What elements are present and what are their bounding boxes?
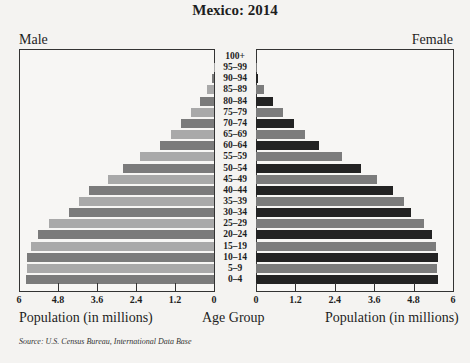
age-group-label: 40–44	[214, 185, 256, 196]
female-bar	[256, 230, 432, 239]
female-bar	[256, 275, 438, 284]
age-group-label: 20–24	[214, 229, 256, 240]
age-group-label: 80–84	[214, 96, 256, 107]
female-bar	[256, 164, 361, 173]
male-bar	[27, 253, 214, 262]
age-group-label: 65–69	[214, 129, 256, 140]
male-bar	[191, 108, 214, 117]
female-tick-label: 6	[438, 294, 468, 305]
chart-title: Mexico: 2014	[0, 2, 470, 19]
male-tick	[97, 283, 98, 292]
male-tick-label: 3.6	[82, 294, 112, 305]
male-bar	[123, 164, 214, 173]
male-label: Male	[19, 32, 48, 48]
male-bar	[49, 219, 214, 228]
female-tick-label: 3.6	[359, 294, 389, 305]
male-tick-label: 1.2	[160, 294, 190, 305]
female-tick	[256, 283, 257, 292]
female-bar	[256, 186, 393, 195]
female-tick	[335, 283, 336, 292]
female-tick	[374, 283, 375, 292]
male-tick	[214, 283, 215, 292]
male-bar	[160, 141, 214, 150]
female-tick-label: 4.8	[399, 294, 429, 305]
male-tick-label: 4.8	[43, 294, 73, 305]
male-bar	[89, 186, 214, 195]
male-tick	[19, 283, 20, 292]
female-bar	[256, 97, 273, 106]
male-tick	[58, 283, 59, 292]
age-group-label: 25–29	[214, 218, 256, 229]
female-bar	[256, 130, 305, 139]
female-bar	[256, 152, 342, 161]
age-group-label: 85–89	[214, 84, 256, 95]
female-tick	[414, 283, 415, 292]
male-bar	[207, 85, 214, 94]
female-tick	[453, 283, 454, 292]
age-group-label: 0–4	[214, 274, 256, 285]
male-bar	[38, 230, 214, 239]
female-bar	[256, 141, 319, 150]
female-x-axis-title: Population (in millions)	[325, 310, 459, 326]
female-bar	[256, 85, 264, 94]
male-tick-label: 2.4	[121, 294, 151, 305]
female-tick-label: 0	[241, 294, 271, 305]
age-group-label: 35–39	[214, 196, 256, 207]
female-label: Female	[412, 32, 453, 48]
male-tick	[175, 283, 176, 292]
female-bar	[256, 253, 438, 262]
age-group-label: 15–19	[214, 241, 256, 252]
age-group-label: 50–54	[214, 163, 256, 174]
female-tick	[295, 283, 296, 292]
male-bar	[31, 242, 214, 251]
female-tick-label: 1.2	[280, 294, 310, 305]
source-note: Source: U.S. Census Bureau, Internationa…	[19, 337, 192, 346]
female-x-axis	[256, 291, 454, 292]
female-bar	[256, 208, 411, 217]
age-group-label: 90–94	[214, 73, 256, 84]
male-bar	[181, 119, 214, 128]
male-tick	[136, 283, 137, 292]
age-group-label: 30–34	[214, 207, 256, 218]
female-bar	[256, 74, 258, 83]
female-tick-label: 2.4	[320, 294, 350, 305]
age-group-label: 55–59	[214, 151, 256, 162]
age-group-label: 10–14	[214, 252, 256, 263]
male-bar	[69, 208, 214, 217]
male-bar	[171, 130, 214, 139]
male-bar	[27, 264, 214, 273]
female-bar	[256, 219, 424, 228]
age-group-label: 70–74	[214, 118, 256, 129]
male-bar	[26, 275, 214, 284]
female-bar	[256, 264, 437, 273]
male-bar	[79, 197, 214, 206]
male-bar	[108, 175, 214, 184]
age-group-label: 100+	[214, 51, 256, 62]
male-x-axis	[19, 291, 215, 292]
age-group-label: 5–9	[214, 263, 256, 274]
female-bar	[256, 63, 257, 72]
male-bar	[200, 97, 214, 106]
female-bar	[256, 108, 283, 117]
age-group-axis-title: Age Group	[202, 310, 265, 326]
male-tick-label: 0	[199, 294, 229, 305]
female-bar	[256, 242, 436, 251]
female-bar	[256, 119, 294, 128]
male-tick-label: 6	[4, 294, 34, 305]
age-group-label: 60–64	[214, 140, 256, 151]
male-bar	[140, 152, 214, 161]
age-group-label: 75–79	[214, 107, 256, 118]
female-bar	[256, 197, 404, 206]
female-bar	[256, 175, 377, 184]
age-group-label: 45–49	[214, 174, 256, 185]
male-x-axis-title: Population (in millions)	[19, 310, 153, 326]
age-group-label: 95–99	[214, 62, 256, 73]
